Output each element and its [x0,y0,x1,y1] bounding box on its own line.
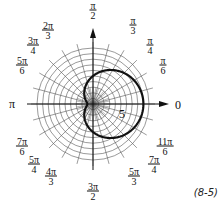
ring-label-5: 5 [119,107,125,122]
fraction-denominator: 6 [20,66,25,75]
fraction-denominator: 4 [152,165,157,174]
angle-label-fraction: 4π3 [45,167,57,186]
angle-label-fraction: π4 [146,36,153,55]
angle-label: π [9,97,15,112]
angle-label-fraction: 3π4 [27,36,39,55]
angle-label-fraction: 5π3 [128,167,140,186]
angle-label-fraction: 5π6 [16,56,28,75]
polar-graph [0,0,224,212]
fraction-denominator: 3 [131,26,136,35]
fraction-denominator: 3 [132,177,137,186]
angle-label-fraction: 5π4 [28,155,40,174]
angle-label-fraction: π3 [129,16,136,35]
fraction-denominator: 2 [91,11,96,20]
angle-label-fraction: π2 [89,1,96,20]
fraction-denominator: 6 [20,147,25,156]
angle-label-fraction: 7π4 [148,155,160,174]
angle-label-fraction: 3π2 [87,182,99,201]
angle-label-fraction: 2π3 [42,21,54,40]
angle-label: 0 [175,98,181,113]
angle-label-fraction: π6 [159,56,166,75]
fraction-denominator: 6 [163,147,168,156]
fraction-denominator: 3 [46,31,51,40]
angle-label-fraction: 11π6 [157,137,174,156]
arrow-right-icon [159,101,169,107]
grid-ray [93,60,137,104]
fraction-denominator: 6 [161,66,166,75]
figure-number: (8-5) [194,187,218,198]
fraction-denominator: 4 [32,165,37,174]
angle-label-fraction: 7π6 [16,137,28,156]
arrow-up-icon [90,28,96,38]
fraction-denominator: 2 [91,192,96,201]
grid-ray [93,104,137,148]
fraction-denominator: 3 [49,177,54,186]
fraction-denominator: 4 [148,46,153,55]
fraction-denominator: 4 [31,46,36,55]
